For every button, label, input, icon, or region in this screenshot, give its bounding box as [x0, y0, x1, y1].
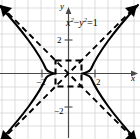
equation-value: 1 — [93, 17, 98, 28]
tick-label-x-neg2: −2 — [36, 78, 46, 87]
hyperbola-left-branch — [0, 5, 55, 139]
equation-label: x2−y2=1 — [66, 18, 98, 28]
tick-label-y-neg2: −2 — [54, 107, 64, 116]
x-axis-label: x — [131, 74, 135, 83]
hyperbola-figure: x2−y2=1 y x −2 2 2 −2 — [0, 0, 140, 139]
y-axis-label: y — [60, 2, 64, 11]
tick-label-y-pos2: 2 — [57, 36, 62, 45]
tick-label-x-pos2: 2 — [96, 78, 101, 87]
